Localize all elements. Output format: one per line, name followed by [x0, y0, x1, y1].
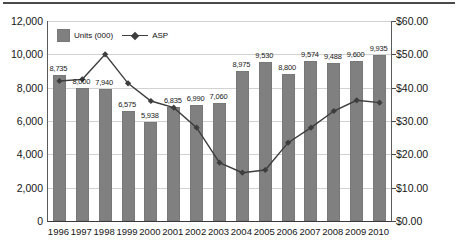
y-axis-right-tick: $20.00: [396, 148, 428, 160]
bar-value-label: 8,735: [43, 64, 73, 73]
y-axis-right-tick: $30.00: [396, 115, 428, 127]
asp-marker: [354, 97, 360, 103]
y-axis-left-tick: 2,000: [17, 182, 43, 194]
bar-value-label: 9,530: [249, 51, 279, 60]
legend-swatch-icon: [57, 29, 70, 42]
bar-value-label: 7,940: [89, 78, 119, 87]
asp-marker: [376, 100, 382, 106]
bar-value-label: 6,575: [112, 100, 142, 109]
bar-value-label: 8,975: [226, 60, 256, 69]
bar-value-label: 9,935: [364, 44, 394, 53]
chart-legend: Units (000) ASP: [57, 29, 168, 42]
asp-markers: [56, 51, 382, 176]
y-axis-left-tick: 10,000: [11, 48, 43, 60]
y-axis-right-tick: $60.00: [396, 15, 428, 27]
bar-value-label: 8,800: [272, 63, 302, 72]
y-axis-left-tick: 0: [37, 215, 43, 227]
y-axis-right-tick: $50.00: [396, 48, 428, 60]
top-divider-rule: [3, 2, 455, 4]
y-axis-right-tick: $10.00: [396, 182, 428, 194]
chart-container: 12,00010,0008,0006,0004,0002,0000 $60.00…: [0, 0, 457, 242]
bar-value-label: 5,938: [135, 111, 165, 120]
legend-label-units: Units (000): [74, 31, 113, 40]
x-axis-label: 2010: [364, 226, 394, 237]
y-axis-left-tick: 4,000: [17, 148, 43, 160]
bar-value-label: 7,060: [204, 92, 234, 101]
legend-item-asp: ASP: [122, 31, 168, 40]
legend-item-units: Units (000): [57, 29, 113, 42]
legend-label-asp: ASP: [152, 31, 168, 40]
y-axis-right-tick: $0.00: [396, 215, 422, 227]
y-axis-right-tick: $40.00: [396, 82, 428, 94]
asp-marker: [56, 78, 62, 84]
asp-marker: [239, 170, 245, 176]
y-axis-left-tick: 12,000: [11, 15, 43, 27]
legend-line-diamond-icon: [122, 31, 148, 40]
y-axis-left-tick: 8,000: [17, 82, 43, 94]
y-axis-left-tick: 6,000: [17, 115, 43, 127]
asp-polyline: [59, 54, 379, 172]
